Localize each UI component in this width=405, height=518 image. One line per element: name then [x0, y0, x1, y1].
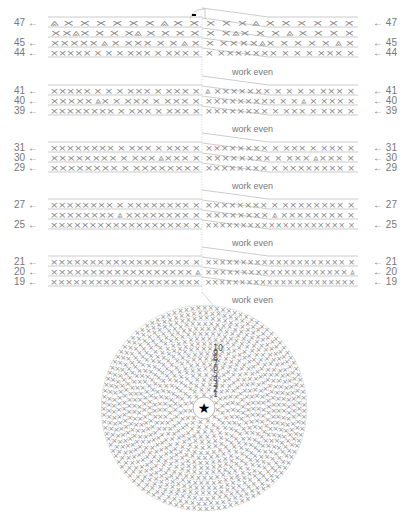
stitch-row-right: ×××××××××××××××××××× ×	[205, 220, 355, 230]
stitch-row-right: × ××××××× × × × ××× ×	[205, 48, 355, 58]
crochet-chart: ⩓ × × × × × × ⩓ × ×× × × ⩓ × × × × × ×××…	[0, 0, 405, 518]
stitch-row-right: ×××××××××××××××××××× ×	[205, 257, 355, 267]
work-even-note: work even	[232, 295, 273, 305]
stitch-row-left: ××⩓× × × ×⩓ × × × ×	[50, 28, 200, 38]
stitch-row-left: ×××××××× × ××××××××	[50, 163, 200, 173]
stitch: ×	[233, 499, 239, 507]
stitch: ×	[191, 504, 197, 512]
stitch: ×	[239, 497, 245, 505]
stitch-row-right: × ××××⩓× × × × × ⩓ ×	[205, 38, 355, 48]
stitch: ×	[162, 497, 168, 505]
stitch-row-right: ×××××××× ⩓ ×××××××× ×	[205, 210, 355, 220]
work-even-note: work even	[232, 67, 273, 77]
row-number-right: ← 44	[373, 48, 397, 58]
row-number-left: 39 ←	[14, 106, 38, 116]
stitch: ×	[222, 503, 228, 511]
stitch: ×	[173, 501, 179, 509]
stitch: ×	[203, 505, 209, 513]
stitch-row-left: ×××××××××××××××××× ×	[50, 257, 200, 267]
row-number-right: ← 39	[373, 106, 397, 116]
round-number: 10	[213, 344, 223, 353]
row-number-left: 44 ←	[14, 48, 38, 58]
stitch-row-left: ×××××××× ⩓ ×××××××× ×	[50, 210, 200, 220]
stitch: ×	[255, 489, 261, 497]
row-number-left: 29 ←	[14, 163, 38, 173]
stitch-row-right: ×××××××× × ×××××××× ×	[205, 200, 355, 210]
stitch-row-right: ×××××××××××××××××××× ⩓	[205, 267, 355, 277]
stitch: ×	[202, 304, 208, 312]
stitch-row-left: ⩓ × × × × × × ⩓ × ×	[50, 18, 200, 28]
stitch: ×	[190, 305, 196, 313]
stitch-row-left: ×××××××××××××××××× ×	[50, 220, 200, 230]
stitch-row-right: ×××××××× × ××× × ××× ×	[205, 143, 355, 153]
stitch-row-left: ×××××××× × ×××××××× ×	[50, 200, 200, 210]
row-number-right: ← 47	[373, 18, 397, 28]
stitch: ×	[245, 495, 251, 503]
rows-layer: ⩓ × × × × × × ⩓ × ×× × × ⩓ × × × × × ×××…	[48, 8, 358, 287]
stitch: ×	[151, 491, 157, 499]
row-number-right: ← 25	[373, 220, 397, 230]
stitch-row-left: ×××××××××××××××××× ⩓	[50, 267, 201, 277]
stitch-row-left: ××××× × × × ××× × ××× ×	[50, 86, 200, 96]
stitch-row-left: ×××××××× × ××× ⩓××× ×	[50, 153, 200, 163]
stitch-row-left: ××××× × × × ××× × ××× ×	[50, 48, 200, 58]
stitch: ×	[210, 504, 216, 512]
stitch-row-left: ×××××××× × ××× × ××× ×	[50, 106, 200, 116]
stitch-row-right: ⩓ ××××××× × × × × ××× ×	[205, 86, 355, 96]
stitch: ×	[167, 499, 173, 507]
stitch-row-right: ××××××××× × × ⩓ × ××× ×	[205, 96, 355, 106]
work-even-note: work even	[232, 238, 273, 248]
row-number-right: ← 27	[373, 200, 397, 210]
row-number-left: 25 ←	[14, 220, 38, 230]
stitch-row-right: ×××××××× × ××× × ××× ×	[205, 106, 355, 116]
marker-dash-icon	[192, 14, 196, 16]
stitch: ×	[179, 502, 185, 510]
stitch-row-left: ××××× ⩓ × ××× × × ⩓ ×	[50, 38, 200, 48]
work-even-note: work even	[232, 124, 273, 134]
stitch: ×	[136, 481, 142, 489]
star-icon: ★	[198, 400, 211, 416]
stitch-row-left: ××××××××××××××××××××	[50, 277, 200, 287]
stitch-row-left: ×××××××× × ××× × ××× ×	[50, 143, 200, 153]
stitch: ×	[183, 306, 189, 314]
stitch-row-right: × ×⩓× × × ⩓ × × × ×	[205, 28, 355, 38]
stitch: ×	[260, 485, 266, 493]
stitch: ×	[196, 304, 202, 312]
stitch: ×	[228, 501, 234, 509]
row-number-left: 19 ←	[14, 277, 38, 287]
stitch-row-right: ××××××××××××××××××××××	[205, 277, 355, 287]
stitch-row-right: ×××××××× × ××× ⩓××× ×	[205, 153, 355, 163]
row-number-left: 47 ←	[14, 18, 38, 28]
stitch: ×	[250, 492, 256, 500]
row-number-left: 27 ←	[14, 200, 38, 210]
stitch: ×	[197, 505, 203, 513]
stitch: ×	[216, 504, 222, 512]
row-number-right: ← 19	[373, 277, 397, 287]
stitch-row-right: × × × ⩓ × × × × × ×	[205, 18, 355, 28]
work-even-note: work even	[232, 181, 273, 191]
stitch: ×	[156, 494, 162, 502]
stitch: ×	[208, 304, 214, 312]
stitch-row-right: ×××××××× × ×××××××× ×	[205, 163, 355, 173]
stitch: ×	[185, 504, 191, 512]
stitch-row-left: ××××× ⩓× × ××× × ××× ×	[50, 96, 200, 106]
row-number-right: ← 29	[373, 163, 397, 173]
